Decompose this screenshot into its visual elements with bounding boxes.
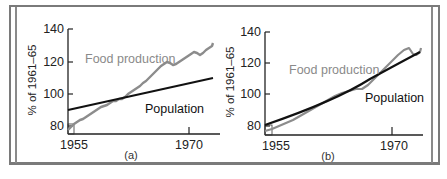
panel-a-xtick-1955: 1955: [60, 138, 88, 152]
panel-b-y-label: % of 1961–65: [224, 47, 236, 118]
panel-b: 140 120 100 80 1955 1970 (b) % of 1961–6…: [224, 25, 424, 162]
panel-b-food-line: [265, 48, 421, 131]
panel-b-ytick-100: 100: [240, 87, 261, 101]
panel-b-xtick-1955: 1955: [262, 139, 290, 153]
panel-a-food-label: Food production: [85, 52, 175, 66]
figure-svg: 140 120 100 80 1955 1970 (a) % of 1961–6…: [0, 0, 447, 179]
panel-a-label: (a): [124, 149, 137, 161]
panel-a-population-label: Population: [145, 102, 204, 116]
panel-b-label: (b): [321, 150, 334, 162]
panel-a-xtick-1970: 1970: [175, 138, 203, 152]
panel-b-ytick-80: 80: [247, 119, 261, 133]
panel-a-y-label: % of 1961–65: [26, 45, 38, 116]
panel-a-ytick-120: 120: [43, 55, 64, 69]
panel-b-ytick-120: 120: [240, 56, 261, 70]
panel-b-population-label: Population: [365, 91, 424, 105]
panel-a-ytick-80: 80: [50, 119, 64, 133]
panel-b-food-label: Food production: [289, 63, 379, 77]
panel-a: 140 120 100 80 1955 1970 (a) % of 1961–6…: [26, 22, 220, 161]
panel-b-ytick-140: 140: [240, 25, 261, 39]
panel-b-xtick-1970: 1970: [380, 139, 408, 153]
panel-a-ytick-140: 140: [43, 22, 64, 36]
panel-a-ytick-100: 100: [43, 87, 64, 101]
